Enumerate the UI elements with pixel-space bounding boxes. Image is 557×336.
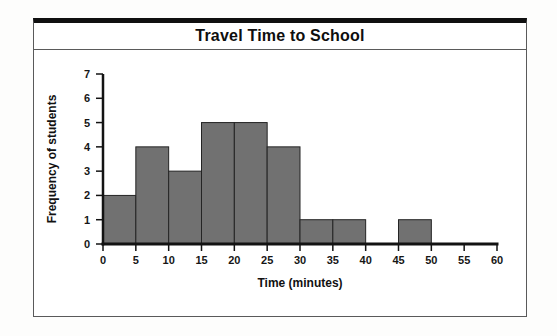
x-tick-label: 35 [327,254,339,266]
histogram-bar [169,171,202,244]
y-axis-title: Frequency of students [45,94,59,223]
chart-frame: Travel Time to School 051015202530354045… [33,18,527,317]
x-tick-label: 15 [195,254,207,266]
y-tick-label: 0 [84,238,90,250]
histogram-bar [136,147,169,244]
y-tick-label: 7 [84,68,90,80]
x-tick-label: 60 [491,254,503,266]
y-tick-label: 6 [84,92,90,104]
x-tick-label: 25 [261,254,273,266]
y-tick-label: 5 [84,117,90,129]
x-axis-title: Time (minutes) [257,276,342,290]
bars-group [103,123,431,244]
page: Travel Time to School 051015202530354045… [0,0,557,336]
histogram-bar [333,220,366,244]
histogram-plot: 05101520253035404550556001234567 Time (m… [34,50,526,316]
x-tick-label: 5 [133,254,139,266]
y-tick-label: 1 [84,214,90,226]
x-tick-label: 10 [163,254,175,266]
y-tick-label: 4 [84,141,91,153]
y-tick-label: 2 [84,189,90,201]
x-tick-label: 45 [392,254,404,266]
histogram-bar [399,220,432,244]
x-tick-label: 20 [228,254,240,266]
x-tick-label: 50 [425,254,437,266]
histogram-bar [234,123,267,244]
x-tick-label: 40 [360,254,372,266]
histogram-bar [267,147,300,244]
histogram-bar [300,220,333,244]
x-tick-label: 55 [458,254,470,266]
x-tick-label: 0 [100,254,106,266]
histogram-bar [103,195,136,244]
y-tick-label: 3 [84,165,90,177]
histogram-bar [202,123,235,244]
x-tick-label: 30 [294,254,306,266]
chart-title: Travel Time to School [34,23,526,50]
